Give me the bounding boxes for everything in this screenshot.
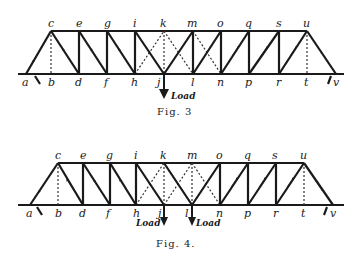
support-right: [328, 76, 331, 84]
node-label-p: p: [244, 207, 251, 220]
node-label-p: p: [245, 76, 252, 89]
node-label-t: t: [304, 76, 309, 89]
node-label-c: c: [55, 149, 61, 162]
node-label-n: n: [216, 207, 223, 220]
node-label-k: k: [160, 149, 167, 162]
node-label-t: t: [301, 207, 306, 220]
node-label-n: n: [217, 76, 224, 89]
node-label-u: u: [303, 17, 310, 30]
node-label-l: l: [185, 207, 189, 220]
node-label-f: f: [105, 207, 112, 220]
node-label-k: k: [160, 17, 167, 30]
support-left: [35, 76, 40, 84]
node-label-j: j: [154, 76, 161, 89]
node-label-e: e: [80, 149, 87, 162]
end-post-right: [307, 31, 336, 74]
node-label-h: h: [133, 207, 140, 220]
arrow-icon: [79, 55, 279, 62]
diagonal-ps: [248, 163, 276, 205]
truss-diagrams: Load c e g i k m o q s u a b d f h j l n…: [0, 0, 362, 261]
support-left: [37, 207, 42, 215]
node-label-l: l: [191, 76, 195, 89]
node-label-h: h: [131, 76, 138, 89]
node-label-u: u: [300, 149, 307, 162]
node-label-r: r: [273, 207, 279, 220]
node-label-m: m: [187, 17, 197, 30]
diagonal-ps: [249, 31, 279, 74]
diagonal-nq: [220, 163, 248, 205]
node-label-v: v: [330, 207, 337, 220]
node-label-a: a: [22, 76, 29, 89]
node-label-g: g: [106, 149, 113, 162]
node-label-d: d: [75, 76, 82, 89]
node-label-e: e: [76, 17, 83, 30]
node-label-m: m: [187, 149, 197, 162]
node-label-i: i: [134, 149, 138, 162]
figure-caption-3: Fig. 3: [157, 106, 192, 117]
node-label-f: f: [103, 76, 110, 89]
node-label-b: b: [48, 76, 55, 89]
node-label-s: s: [276, 17, 282, 30]
diagonal-lo: [193, 31, 221, 74]
diagonal-nq: [221, 31, 249, 74]
node-label-a: a: [26, 207, 33, 220]
node-label-o: o: [216, 149, 223, 162]
diagonal-lo: [192, 163, 220, 205]
node-label-d: d: [79, 207, 86, 220]
load-arrowhead-icon: [188, 217, 196, 226]
node-label-g: g: [104, 17, 111, 30]
end-post-right: [304, 163, 333, 205]
support-right: [324, 207, 327, 215]
figure-caption-4: Fig. 4.: [156, 238, 195, 249]
truss-figure-4: Load Load c e g i k m o q s u a b d f h …: [18, 149, 344, 228]
node-label-v: v: [333, 76, 340, 89]
node-label-q: q: [245, 17, 252, 30]
node-label-c: c: [48, 17, 54, 30]
diagonal-ru: [279, 31, 307, 74]
node-label-r: r: [276, 76, 282, 89]
node-label-s: s: [272, 149, 278, 162]
node-label-q: q: [244, 149, 251, 162]
load-label: Load: [170, 91, 196, 101]
arrow-icon: [33, 50, 40, 62]
diagonal-ru: [276, 163, 304, 205]
node-label-b: b: [55, 207, 62, 220]
node-label-o: o: [217, 17, 224, 30]
diagonal-cd: [58, 163, 83, 205]
node-label-i: i: [133, 17, 137, 30]
diagonal-kl: [164, 163, 192, 205]
diagonal-ij: [136, 163, 164, 205]
truss-figure-3: Load c e g i k m o q s u a b d f h j l n…: [18, 17, 344, 101]
diagonal-gh: [110, 163, 136, 205]
load-arrowhead-icon: [159, 89, 169, 99]
